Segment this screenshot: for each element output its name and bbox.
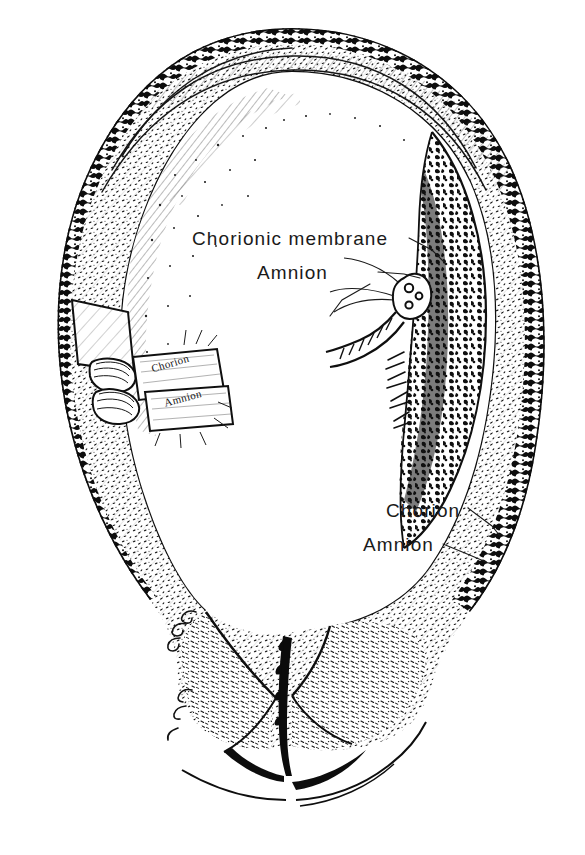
label-amnion-right: Amnion [363, 535, 434, 554]
label-chorionic-membrane: Chorionic membrane [192, 229, 388, 248]
umbilical-vessel [405, 284, 413, 292]
label-amnion-top: Amnion [257, 263, 328, 282]
label-chorion-right: Chorion [386, 501, 460, 520]
umbilical-vessel [405, 301, 412, 308]
umbilical-vessel [416, 293, 423, 300]
figure-root: Chorionic membrane Amnion Chorion Amnion… [0, 0, 585, 855]
uterus-sagittal-section-illustration [0, 0, 585, 855]
